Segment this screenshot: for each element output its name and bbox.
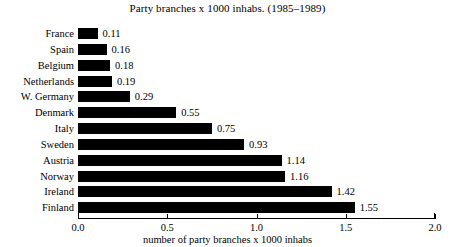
category-label: W. Germany: [21, 91, 74, 103]
bar: [78, 171, 285, 182]
bar-row: Italy0.75: [0, 123, 455, 135]
plot-area: France0.11Spain0.16Belgium0.18Netherland…: [0, 0, 455, 247]
bar-row: Finland1.55: [0, 202, 455, 214]
category-label: France: [45, 28, 74, 40]
bar-row: Austria1.14: [0, 155, 455, 167]
category-label: Austria: [43, 155, 74, 167]
bar: [78, 28, 98, 39]
bar-value-label: 0.19: [117, 76, 135, 88]
category-label: Finland: [42, 202, 74, 214]
bar-value-label: 0.11: [103, 28, 121, 40]
bar: [78, 186, 332, 197]
x-tick: [167, 214, 168, 219]
bar-value-label: 1.42: [337, 186, 355, 198]
x-tick: [346, 214, 347, 219]
bar-row: W. Germany0.29: [0, 91, 455, 103]
bar-row: Sweden0.93: [0, 139, 455, 151]
x-tick: [257, 214, 258, 219]
bar-row: Norway1.16: [0, 171, 455, 183]
category-label: Belgium: [38, 60, 74, 72]
category-label: Sweden: [41, 139, 74, 151]
bar-row: Denmark0.55: [0, 107, 455, 119]
bar-row: Belgium0.18: [0, 60, 455, 72]
bar-value-label: 1.55: [360, 202, 378, 214]
bar: [78, 202, 355, 213]
bar: [78, 107, 176, 118]
bar-value-label: 0.29: [135, 91, 153, 103]
category-label: Ireland: [44, 186, 74, 198]
bar: [78, 155, 282, 166]
bar-value-label: 0.75: [217, 123, 235, 135]
category-label: Italy: [55, 123, 74, 135]
bar-row: France0.11: [0, 28, 455, 40]
category-label: Netherlands: [23, 76, 74, 88]
bar: [78, 139, 244, 150]
bar: [78, 91, 130, 102]
bar: [78, 123, 212, 134]
x-tick: [435, 214, 436, 219]
bar: [78, 44, 107, 55]
bar: [78, 76, 112, 87]
category-label: Norway: [40, 171, 74, 183]
category-label: Spain: [50, 44, 74, 56]
bar-value-label: 1.16: [290, 171, 308, 183]
bar-value-label: 0.16: [112, 44, 130, 56]
bar: [78, 60, 110, 71]
bar-row: Spain0.16: [0, 44, 455, 56]
bar-value-label: 1.14: [287, 155, 305, 167]
bar-row: Ireland1.42: [0, 186, 455, 198]
x-axis-title: number of party branches x 1000 inhabs: [0, 233, 455, 246]
category-label: Denmark: [35, 107, 74, 119]
bar-value-label: 0.18: [115, 60, 133, 72]
bar-row: Netherlands0.19: [0, 76, 455, 88]
bar-value-label: 0.55: [181, 107, 199, 119]
bar-value-label: 0.93: [249, 139, 267, 151]
x-tick: [78, 214, 79, 219]
